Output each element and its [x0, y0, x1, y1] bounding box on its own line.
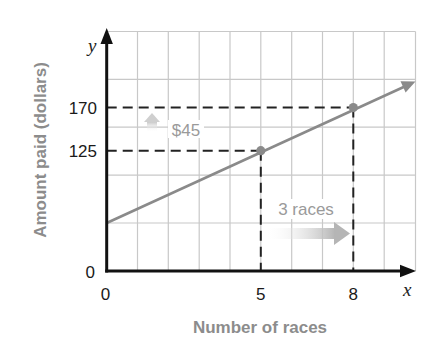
x-tick-8: 8	[349, 285, 358, 304]
run-arrow-icon	[265, 222, 350, 245]
x-axis-variable: x	[402, 279, 412, 300]
y-tick-125: 125	[69, 142, 97, 161]
y-tick-170: 170	[69, 99, 97, 118]
y-axis-title: Amount paid (dollars)	[31, 62, 50, 238]
rise-arrow-icon	[144, 113, 160, 132]
line-chart: y x 170 125 0 0 5 8 $45 3 races Number o…	[0, 0, 437, 348]
x-tick-0: 0	[101, 285, 110, 304]
x-tick-5: 5	[256, 285, 265, 304]
data-point	[256, 146, 265, 155]
x-axis-title: Number of races	[193, 318, 327, 337]
y-tick-0: 0	[86, 263, 95, 282]
run-label: 3 races	[278, 200, 334, 219]
rise-label: $45	[172, 121, 200, 140]
y-axis-arrow-icon	[101, 28, 113, 44]
y-axis-variable: y	[86, 35, 97, 56]
x-axis-arrow-icon	[400, 265, 416, 277]
data-point	[349, 103, 358, 112]
